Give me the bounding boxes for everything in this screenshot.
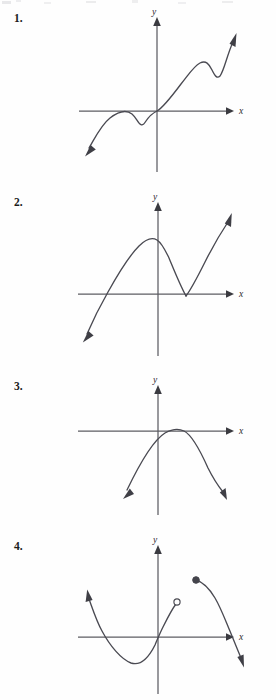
- x-axis-label-1: x: [238, 106, 244, 116]
- x-axis-arrowhead-3: [226, 427, 234, 435]
- problem-number-4: 4.: [14, 540, 23, 552]
- open-circle-marker-4: [174, 599, 180, 605]
- curve-arrowhead-1-left: [85, 145, 96, 157]
- worksheet-page: 1. x y 2.: [0, 0, 276, 700]
- y-axis-arrowhead-2: [154, 202, 162, 211]
- x-axis-label-2: x: [238, 289, 244, 299]
- function-curve-1: [89, 42, 233, 148]
- curve-arrowhead-2-right: [225, 213, 232, 227]
- y-axis-arrowhead-1: [153, 17, 161, 26]
- y-axis-arrowhead-4: [154, 545, 162, 554]
- function-curve-4-left: [89, 599, 176, 664]
- y-axis-arrowhead-3: [154, 385, 162, 394]
- function-curve-4-right: [196, 580, 241, 658]
- function-curve-3: [127, 429, 223, 492]
- problem-number-3: 3.: [14, 380, 23, 392]
- curve-arrowhead-4-right: [237, 655, 244, 668]
- curve-arrowhead-3-right: [220, 488, 227, 500]
- y-axis-label-1: y: [151, 7, 157, 17]
- function-curve-2-right: [186, 222, 228, 296]
- graph-1: x y: [0, 0, 276, 185]
- x-axis-label-4: x: [238, 632, 244, 642]
- x-axis-arrowhead-4: [226, 633, 234, 641]
- y-axis-label-3: y: [152, 375, 158, 385]
- curve-arrowhead-3-left: [123, 489, 134, 500]
- closed-dot-marker-4: [193, 577, 200, 584]
- x-axis-arrowhead-2: [226, 290, 234, 298]
- y-axis-label-4: y: [152, 535, 158, 545]
- curve-arrowhead-2-left: [83, 331, 94, 343]
- problem-number-2: 2.: [14, 196, 23, 208]
- y-axis-label-2: y: [152, 192, 158, 202]
- curve-arrowhead-1-right: [230, 33, 237, 47]
- x-axis-arrowhead-1: [226, 107, 234, 115]
- curve-arrowhead-4-left: [86, 590, 93, 603]
- x-axis-label-3: x: [238, 426, 244, 436]
- function-curve-2-left: [87, 239, 186, 334]
